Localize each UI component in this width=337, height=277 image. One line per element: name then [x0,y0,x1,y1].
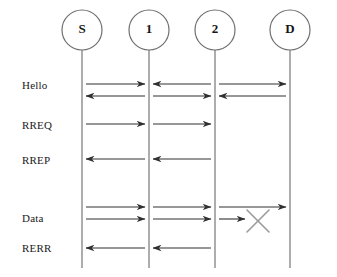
node-2[interactable]: 2 [195,10,235,50]
diagram-canvas: S12D HelloRREQRREPDataRERR [0,0,337,277]
node-s[interactable]: S [62,10,102,50]
row-label-rreq: RREQ [22,119,52,131]
node-label-d: D [285,21,294,36]
node-1[interactable]: 1 [129,10,169,50]
sequence-diagram: S12D HelloRREQRREPDataRERR [0,0,337,277]
row-label-rerr: RERR [22,242,52,254]
node-label-2: 2 [212,21,219,36]
break-mark-link-failure-x [247,210,269,232]
node-label-1: 1 [146,21,153,36]
break-marks-group [247,210,269,232]
row-label-hello: Hello [22,79,48,91]
row-label-data: Data [22,212,44,224]
node-label-s: S [78,21,85,36]
row-label-rrep: RREP [22,154,50,166]
node-d[interactable]: D [270,10,310,50]
row-labels-group: HelloRREQRREPDataRERR [22,79,52,254]
nodes-group: S12D [62,10,310,50]
